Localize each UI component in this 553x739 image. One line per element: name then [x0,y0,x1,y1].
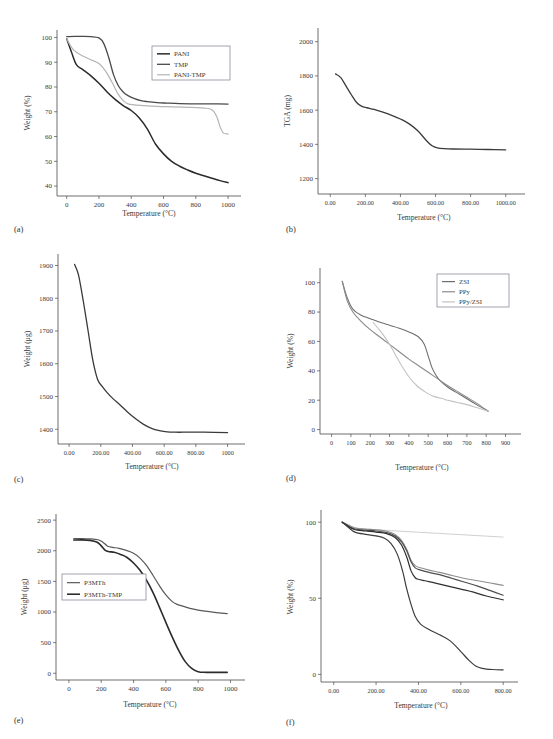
x-tick-label: 700 [462,439,471,446]
panel-c-label: (c) [14,474,23,484]
x-tick-label: 0 [67,685,71,693]
y-tick-label: 1400 [39,426,54,434]
x-tick-label: 800 [191,201,202,209]
panel-a-ylabel: Weight (%) [23,95,32,130]
panel-b-yticks: 12001400160018002000 [299,38,318,183]
panel-a-label: (a) [14,224,23,234]
y-tick-label: 0 [312,426,316,434]
legend-label: TMP [174,61,188,68]
x-tick-label: 1000 [221,449,233,456]
panel-d-yticks: 020406080100 [305,279,321,434]
x-tick-label: 0 [330,439,333,446]
panel-a-plot: PANITMPPANI-TMP Temperature (°C) Weight … [0,0,276,246]
panel-a-xlabel: Temperature (°C) [122,209,176,218]
legend-label: P3MTh-TMP [84,591,122,599]
x-tick-label: 600 [443,439,452,446]
panel-b-xlabel: Temperature (°C) [397,213,451,222]
x-tick-label: 400 [404,439,413,446]
panel-e-svg: P3MThP3MTh-TMP Temperature (°C) Weight (… [0,492,276,739]
series-tga-curve [336,74,506,150]
y-tick-label: 1600 [299,107,314,115]
y-tick-label: 100 [306,519,317,527]
series-ppy-zsi [373,322,488,411]
y-tick-label: 20 [308,397,316,405]
y-tick-label: 40 [308,367,316,375]
y-tick-label: 1800 [299,72,314,80]
series-curve-4 [342,522,503,600]
panel-a-legend: PANITMPPANI-TMP [152,46,230,80]
x-tick-label: 200 [96,685,107,693]
panel-c-yticks: 140015001600170018001900 [39,262,58,434]
x-tick-label: 300 [385,439,394,446]
x-tick-label: 800 [482,439,491,446]
x-tick-label: 800.00 [462,199,479,206]
series-curve-5 [342,522,503,670]
panel-d-plot: ZSIPPyPPy/ZSI Temperature (°C) Weight (%… [276,246,553,492]
x-tick-label: 400.00 [392,199,409,206]
panel-c-ylabel: Weight (μg) [23,330,32,367]
y-tick-label: 0 [48,670,52,678]
x-tick-label: 800.00 [187,449,204,456]
x-tick-label: 100 [346,439,355,446]
y-tick-label: 50 [45,158,53,166]
x-tick-label: 1000 [223,685,238,693]
x-tick-label: 600 [158,201,169,209]
panel-c-curves [75,264,228,432]
y-tick-label: 1000 [37,608,52,616]
panel-b-ylabel: TGA (mg) [283,95,292,127]
panel-c-xticks: 0.00200.00400.00600.00800.001000 [64,444,234,456]
y-tick-label: 1700 [39,327,54,335]
panel-a-yticks: 405060708090100 [42,34,58,191]
y-tick-label: 50 [309,595,317,603]
y-tick-label: 1600 [39,360,54,368]
panel-e: P3MThP3MTh-TMP Temperature (°C) Weight (… [0,492,276,739]
x-tick-label: 500 [424,439,433,446]
legend-label: PANI-TMP [174,71,206,78]
panel-f-xlabel: Temperature (°C) [394,701,448,710]
x-tick-label: 800 [193,685,204,693]
x-tick-label: 0.00 [64,449,75,456]
y-tick-label: 1400 [299,141,314,149]
panel-f-ylabel: Weight (%) [286,579,295,614]
panel-c-plot: Temperature (°C) Weight (μg) 0.00200.004… [0,246,276,492]
panel-b-svg: Temperature (°C) TGA (mg) 0.00200.00400.… [276,0,553,246]
panel-d-xlabel: Temperature (°C) [395,463,449,472]
panel-f-xticks: 0.00200.00400.00600.00800.00 [328,682,511,694]
panel-d-legend: ZSIPPyPPy/ZSI [437,274,509,307]
panel-d-label: (d) [286,473,296,483]
panel-a: PANITMPPANI-TMP Temperature (°C) Weight … [0,0,276,246]
x-tick-label: 400 [128,685,139,693]
panel-e-label: (e) [14,715,23,725]
panel-f-curves [342,522,503,670]
panel-c-axes [58,254,245,444]
figure-panel-grid: PANITMPPANI-TMP Temperature (°C) Weight … [0,0,553,739]
x-tick-label: 0.00 [328,687,339,694]
x-tick-label: 0 [65,201,69,209]
y-tick-label: 80 [308,308,316,316]
panel-f-label: (f) [286,717,295,727]
x-tick-label: 400.00 [124,449,141,456]
panel-b-axes [318,28,525,194]
panel-f-yticks: 050100 [306,519,322,679]
panel-d-xticks: 0100200300400500600700800900 [330,434,510,446]
panel-c-xlabel: Temperature (°C) [125,462,179,471]
legend-label: PANI [174,50,190,57]
panel-d-ylabel: Weight (%) [286,333,295,368]
series-weight-curve [75,264,228,432]
panel-b-xticks: 0.00200.00400.00600.00800.001000.00 [325,194,516,206]
x-tick-label: 200.00 [92,449,109,456]
panel-e-xlabel: Temperature (°C) [123,700,177,709]
panel-e-curves [74,538,227,672]
panel-e-plot: P3MThP3MTh-TMP Temperature (°C) Weight (… [0,492,276,739]
y-tick-label: 100 [42,34,53,42]
panel-f-svg: Temperature (°C) Weight (%) 0.00200.0040… [276,492,553,739]
y-tick-label: 60 [308,338,316,346]
panel-b-plot: Temperature (°C) TGA (mg) 0.00200.00400.… [276,0,553,246]
panel-c: Temperature (°C) Weight (μg) 0.00200.004… [0,246,276,492]
y-tick-label: 1200 [299,175,314,183]
x-tick-label: 1000 [221,201,236,209]
y-tick-label: 1800 [39,295,54,303]
legend-label: P3MTh [84,579,106,587]
x-tick-label: 0.00 [325,199,336,206]
y-tick-label: 2000 [299,38,314,46]
